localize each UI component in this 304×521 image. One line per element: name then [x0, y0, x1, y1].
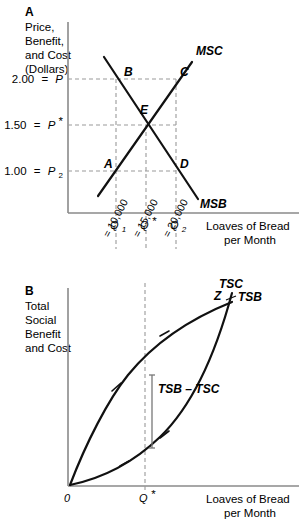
panel-b-x-tick-zero: 0	[64, 492, 71, 504]
panel-b-x-axis-title-line-2: per Month	[224, 507, 276, 519]
panel-a: A Price, Benefit, and Cost (Dollars) MSC…	[4, 5, 299, 249]
panel-a-point-label-e: E	[140, 103, 149, 117]
panel-a-curve-label-msc: MSC	[196, 44, 223, 58]
panel-a-y-tick-150: 1.50 = P *	[4, 115, 63, 131]
panel-a-point-label-b: B	[124, 65, 133, 79]
panel-a-y-tick-150-star: *	[59, 115, 64, 127]
panel-b-curve-label-tsb: TSB	[238, 290, 262, 304]
panel-a-point-label-a: A	[103, 157, 113, 171]
panel-b-x-tick-qstar-star: *	[151, 488, 156, 500]
panel-a-x-axis-title-line-2: per Month	[224, 234, 276, 246]
panel-a-y-tick-100-equals: =	[34, 165, 41, 177]
panel-a-y-tick-100-value: 1.00	[4, 165, 26, 177]
panel-b-annotation-tsb-minus-tsc: TSB – TSC	[158, 382, 220, 396]
panel-b-point-label-z: Z	[213, 289, 222, 303]
panel-a-curve-label-msb: MSB	[200, 197, 227, 211]
panel-a-y-tick-150-symbol: P	[48, 119, 56, 131]
panel-a-y-tick-100: 1.00 = P 2	[4, 165, 63, 180]
panel-b-y-axis-title-line-1: Total	[25, 300, 49, 312]
panel-a-y-axis-title-line-1: Price,	[25, 21, 54, 33]
panel-a-y-tick-200-equals: =	[41, 73, 48, 85]
panel-a-y-tick-100-symbol: P	[48, 165, 56, 177]
panel-b-y-axis-title-line-4: and Cost	[25, 342, 72, 354]
panel-b-letter: B	[25, 284, 34, 298]
panel-b-x-tick-qstar: Q *	[139, 488, 156, 504]
panel-a-y-tick-200-value: 2.00	[12, 73, 34, 85]
panel-a-x-axis-title-line-1: Loaves of Bread	[206, 220, 290, 232]
panel-b-tsb-tick-upper	[160, 331, 169, 336]
panel-a-point-label-c: C	[180, 65, 189, 79]
economics-figure: A Price, Benefit, and Cost (Dollars) MSC…	[0, 0, 304, 521]
panel-a-y-tick-200-symbol: P	[55, 73, 63, 85]
panel-a-y-tick-100-sub: 2	[59, 171, 64, 180]
panel-a-letter: A	[25, 5, 34, 19]
panel-b-y-axis-title-line-2: Social	[25, 314, 56, 326]
panel-a-point-label-d: D	[180, 157, 189, 171]
panel-b: B Total Social Benefit and Cost TSC TSB …	[25, 277, 299, 519]
panel-a-x-tick-q1-sub: 1	[122, 225, 126, 234]
figure-svg: A Price, Benefit, and Cost (Dollars) MSC…	[0, 0, 304, 521]
panel-a-y-axis-title-line-3: and Cost	[25, 49, 72, 61]
panel-b-x-tick-qstar-symbol: Q	[139, 492, 148, 504]
panel-a-y-tick-150-equals: =	[34, 119, 41, 131]
panel-a-y-tick-150-value: 1.50	[4, 119, 26, 131]
panel-a-y-axis-title-line-2: Benefit,	[25, 35, 64, 47]
panel-a-msc-curve	[98, 62, 192, 196]
panel-b-curve-label-tsc: TSC	[219, 277, 243, 291]
panel-b-x-axis-title-line-1: Loaves of Bread	[206, 493, 290, 505]
panel-b-y-axis-title-line-3: Benefit	[25, 328, 62, 340]
panel-a-x-tick-q2-sub: 2	[181, 225, 187, 234]
